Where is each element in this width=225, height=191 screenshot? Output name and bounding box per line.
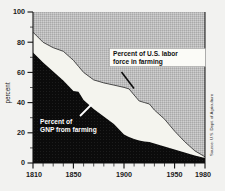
x-tick-label-1900: 1900 bbox=[116, 170, 132, 179]
x-tick-label-1810: 1810 bbox=[26, 170, 42, 179]
x-tick-label-1950: 1950 bbox=[167, 170, 183, 179]
y-tick-label-60: 60 bbox=[17, 68, 25, 77]
y-tick-label-20: 20 bbox=[17, 128, 25, 137]
x-axis-ticks bbox=[33, 163, 205, 169]
source-note: Source: U.S. Dept. of Agriculture bbox=[209, 93, 214, 156]
x-tick-label-1980: 1980 bbox=[195, 170, 211, 179]
y-tick-label-100: 100 bbox=[13, 7, 25, 16]
y-tick-label-0: 0 bbox=[21, 158, 25, 167]
x-tick-label-1850: 1850 bbox=[65, 170, 81, 179]
chart-figure: 0 20 40 60 80 100 percent bbox=[0, 0, 225, 191]
y-tick-label-40: 40 bbox=[17, 98, 25, 107]
labor-force-callout-line2: force in farming bbox=[113, 58, 163, 66]
y-axis-title: percent bbox=[4, 82, 12, 103]
chart-svg: 0 20 40 60 80 100 percent bbox=[0, 0, 225, 191]
labor-force-callout-line1: Percent of U.S. labor bbox=[113, 50, 178, 57]
gnp-callout-line2: GNP from farming bbox=[40, 126, 97, 134]
gnp-callout-line1: Percent of bbox=[40, 118, 73, 125]
y-tick-label-80: 80 bbox=[17, 38, 25, 47]
